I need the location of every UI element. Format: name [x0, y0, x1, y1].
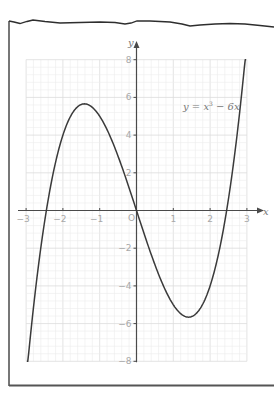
x-tick-label: −1 — [90, 214, 103, 224]
axes — [18, 41, 264, 362]
y-tick-label: −6 — [118, 319, 132, 329]
origin-label: O — [128, 213, 135, 223]
y-tick-label: 8 — [126, 55, 132, 65]
equation-rest: − 6x — [213, 101, 240, 112]
x-tick-label: −3 — [16, 214, 29, 224]
equation-eq: = — [189, 101, 204, 112]
x-tick-label: 2 — [207, 214, 213, 224]
y-axis-arrow-icon — [134, 41, 140, 48]
y-tick-label: 6 — [126, 92, 132, 102]
x-tick-label: 3 — [244, 214, 250, 224]
y-tick-label: −4 — [118, 281, 132, 291]
x-tick-label: −2 — [53, 214, 66, 224]
torn-paper-top-edge — [9, 20, 274, 27]
y-tick-label: −2 — [118, 243, 131, 253]
x-tick-label: 1 — [170, 214, 176, 224]
y-tick-label: −8 — [118, 356, 132, 366]
y-tick-label: 2 — [126, 168, 132, 178]
y-tick-label: 4 — [126, 130, 132, 140]
equation-annotation: y = x3 − 6x — [182, 100, 240, 112]
y-axis-label: y — [127, 37, 134, 48]
chart-figure: −3−2−1123−8−6−4−22468 y x O y = x3 − 6x — [0, 0, 274, 395]
x-axis-label: x — [263, 206, 269, 217]
